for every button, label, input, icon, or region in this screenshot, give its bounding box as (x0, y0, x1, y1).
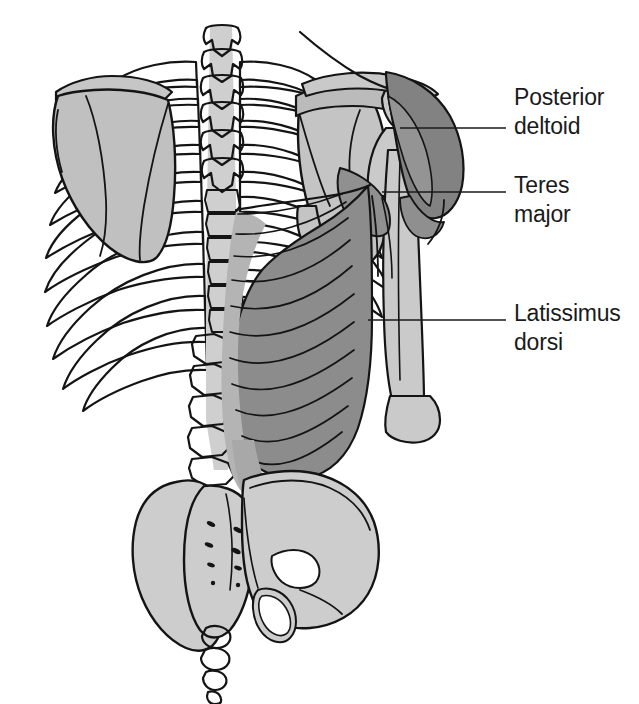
label-latissimus-dorsi: Latissimus dorsi (514, 300, 621, 355)
scapula-left (53, 76, 175, 262)
label-posterior-deltoid-line2: deltoid (514, 113, 580, 139)
label-teres-major: Teres major (514, 172, 571, 227)
label-latissimus-dorsi-line2: dorsi (514, 329, 563, 355)
pelvis (133, 471, 379, 704)
label-latissimus-dorsi-line1: Latissimus (514, 300, 621, 326)
label-posterior-deltoid-line1: Posterior (514, 84, 605, 110)
label-teres-major-line2: major (514, 201, 571, 227)
anatomy-illustration: Posterior deltoid Teres major Latissimus… (0, 0, 639, 704)
anatomical-figure: Posterior deltoid Teres major Latissimus… (0, 0, 639, 704)
label-teres-major-line1: Teres (514, 172, 569, 198)
label-posterior-deltoid: Posterior deltoid (514, 84, 605, 139)
